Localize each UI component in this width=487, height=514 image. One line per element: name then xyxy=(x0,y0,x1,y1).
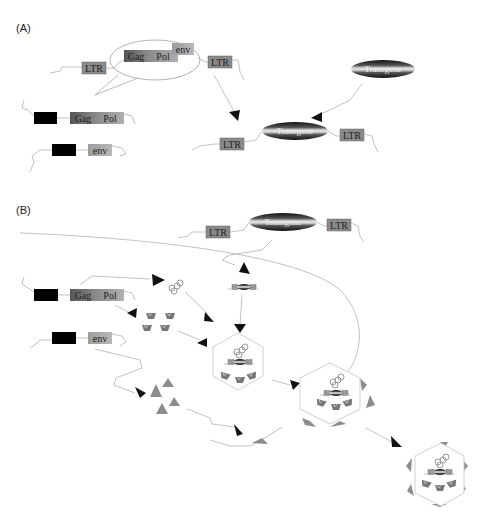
gag-protein-icon xyxy=(169,280,183,294)
ltr-box: LTR xyxy=(208,56,232,68)
env-protein-icon xyxy=(252,438,268,444)
arrowhead-icon xyxy=(234,324,246,333)
promoter-box xyxy=(52,332,76,344)
arrowhead-icon xyxy=(290,380,300,390)
svg-text:env: env xyxy=(176,44,190,55)
svg-text:Pol: Pol xyxy=(156,51,170,62)
svg-text:LTR: LTR xyxy=(85,63,103,74)
svg-text:Gag: Gag xyxy=(128,51,145,62)
panel-a-provirus: LTR Gag Pol env LTR xyxy=(50,40,244,95)
ltr-box: LTR xyxy=(340,129,364,141)
callout-pointer xyxy=(95,75,138,95)
panel-a-vector: LTR Transgene LTR xyxy=(192,122,378,152)
env-box: env xyxy=(88,332,112,344)
budding-virion xyxy=(300,363,375,427)
svg-text:env: env xyxy=(93,145,107,156)
arrowhead-icon xyxy=(239,262,250,274)
transcript-icon xyxy=(228,284,258,290)
panel-a-env-construct: env xyxy=(30,144,126,172)
svg-text:env: env xyxy=(93,333,107,344)
svg-text:Transgene: Transgene xyxy=(276,126,313,136)
arrowhead-icon xyxy=(391,436,402,447)
gag-box: Gag xyxy=(70,112,96,124)
gag-box: Gag xyxy=(124,50,148,62)
promoter-box xyxy=(34,112,57,124)
panel-a-transgene-source: Transgene xyxy=(351,60,415,78)
svg-text:LTR: LTR xyxy=(330,220,348,231)
svg-text:LTR: LTR xyxy=(343,130,361,141)
ltr-box: LTR xyxy=(220,138,244,150)
env-box: env xyxy=(172,43,194,55)
svg-text:LTR: LTR xyxy=(209,227,227,238)
panel-b-vector: LTR Transgene LTR xyxy=(178,213,364,242)
env-protein-cluster xyxy=(150,378,180,414)
panel-a-label: (A) xyxy=(16,22,31,34)
assembling-core xyxy=(213,333,263,390)
arrowhead-icon xyxy=(229,110,240,121)
arrowhead-icon xyxy=(127,308,137,318)
arrowhead-icon xyxy=(152,274,165,286)
arrowhead-icon xyxy=(311,112,322,122)
promoter-box xyxy=(34,289,58,301)
arrowhead-icon xyxy=(234,424,243,436)
env-box: env xyxy=(88,144,112,156)
panel-a-gagpol-construct: Gag Pol xyxy=(22,100,135,124)
pol-box: Pol xyxy=(96,112,124,124)
svg-text:Pol: Pol xyxy=(103,290,117,301)
arrowhead-icon xyxy=(204,312,214,322)
promoter-box xyxy=(52,144,76,156)
ltr-box: LTR xyxy=(82,62,106,74)
pol-protein-cluster xyxy=(142,313,175,331)
svg-text:Gag: Gag xyxy=(75,113,92,124)
svg-text:LTR: LTR xyxy=(211,57,229,68)
cell-membrane xyxy=(20,233,359,375)
svg-text:Pol: Pol xyxy=(103,113,117,124)
ltr-box: LTR xyxy=(206,226,230,238)
mature-virion xyxy=(406,442,468,507)
panel-b-label: (B) xyxy=(16,204,31,216)
pol-box: Pol xyxy=(96,289,124,301)
arrowhead-icon xyxy=(135,387,146,398)
ltr-box: LTR xyxy=(327,219,351,231)
retroviral-vector-diagram: (A) LTR Gag Pol env LTR xyxy=(0,0,487,514)
panel-b-env-construct: env xyxy=(30,332,126,348)
svg-text:Transgene: Transgene xyxy=(264,217,301,227)
svg-text:Transgene: Transgene xyxy=(364,64,401,74)
svg-text:LTR: LTR xyxy=(223,139,241,150)
panel-b-gagpol-construct: Gag Pol xyxy=(22,277,135,301)
svg-text:Gag: Gag xyxy=(75,290,92,301)
gag-box: Gag xyxy=(70,289,96,301)
